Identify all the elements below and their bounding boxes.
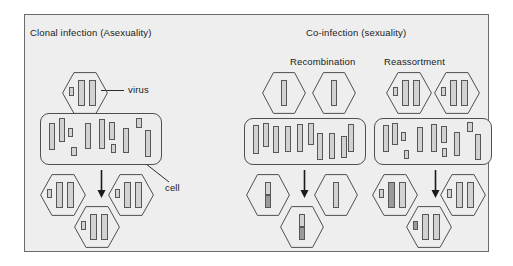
genome-segment	[47, 189, 52, 198]
genome-segment	[417, 127, 423, 152]
genome-segment	[99, 119, 105, 149]
genome-segment	[433, 214, 440, 240]
reassortment-progeny-virus	[406, 206, 452, 248]
clonal-panel-title: Clonal infection (Asexuality)	[30, 27, 152, 38]
genome-segment	[285, 126, 291, 152]
recombination-host-cell	[244, 118, 366, 165]
genome-segment	[136, 118, 142, 128]
genome-segment	[456, 182, 463, 208]
genome-segment	[297, 124, 303, 152]
virus-genome-group	[62, 72, 108, 114]
genome-segment	[454, 132, 460, 156]
genome-segment	[273, 126, 279, 153]
genome-segment	[383, 125, 389, 152]
genome-segment	[404, 150, 409, 159]
genome-segment	[402, 80, 409, 106]
virus-infection-diagram: Clonal infection (Asexuality) Co-infecti…	[0, 0, 513, 266]
virus-genome-group	[386, 72, 432, 114]
genome-segment	[145, 130, 151, 157]
genome-segment	[475, 134, 481, 160]
genome-segment	[49, 123, 55, 150]
virus-genome-group	[312, 72, 356, 114]
genome-segment	[90, 214, 97, 240]
recombination-progeny-arrow	[299, 170, 310, 198]
reassortment-subtitle: Reassortment	[384, 56, 445, 67]
genome-segment	[401, 132, 406, 141]
genome-segment	[281, 80, 287, 106]
reassortment-parent-virus	[434, 72, 480, 114]
virus-genome-group	[262, 72, 306, 114]
genome-segment	[78, 80, 85, 106]
genome-segment	[85, 123, 91, 149]
clonal-parent-virus	[62, 72, 108, 114]
genome-segment	[135, 182, 142, 208]
genome-segment	[431, 124, 437, 152]
virus-genome-group	[74, 206, 120, 248]
genome-segment	[111, 144, 116, 153]
genome-segment	[71, 147, 77, 156]
genome-segment	[68, 128, 73, 137]
genome-segment	[441, 126, 447, 143]
genome-segment	[299, 214, 305, 240]
clonal-progeny-virus	[74, 206, 120, 248]
genome-segment	[109, 122, 115, 140]
genome-segment	[81, 221, 86, 230]
genome-segment	[348, 124, 354, 152]
recombination-parent-virus	[262, 72, 306, 114]
clonal-host-cell	[40, 113, 162, 165]
reassortment-host-cell	[374, 118, 492, 165]
genome-segment	[124, 182, 131, 208]
genome-segment	[413, 221, 418, 230]
genome-segment	[101, 214, 108, 240]
genome-segment	[317, 133, 323, 160]
genome-segment	[308, 123, 314, 145]
genome-segment	[392, 123, 398, 145]
genome-segment	[89, 80, 96, 106]
genome-segment	[263, 123, 269, 147]
recombination-progeny-virus	[280, 206, 324, 248]
genome-segment	[447, 189, 452, 198]
genome-segment	[422, 214, 429, 240]
genome-segment	[467, 122, 473, 132]
genome-segment	[253, 125, 259, 154]
virus-genome-group	[280, 206, 324, 248]
genome-segment	[69, 87, 74, 96]
genome-segment	[115, 189, 120, 198]
genome-segment	[329, 133, 335, 159]
virus-genome-group	[406, 206, 452, 248]
genome-segment	[467, 182, 474, 208]
reassortment-parent-virus	[386, 72, 432, 114]
genome-segment	[379, 189, 384, 198]
genome-segment	[341, 136, 347, 158]
coinfection-panel-title: Co-infection (sexuality)	[306, 27, 406, 38]
genome-segment	[388, 182, 395, 208]
virus-genome-group	[434, 72, 480, 114]
genome-segment	[333, 182, 339, 208]
genome-segment	[399, 182, 406, 208]
genome-segment	[59, 118, 65, 142]
genome-segment	[442, 148, 447, 157]
genome-segment	[461, 80, 468, 106]
genome-segment	[56, 182, 63, 208]
genome-segment	[450, 80, 457, 106]
clonal-progeny-arrow	[96, 170, 107, 198]
genome-segment	[331, 80, 337, 106]
virus-callout-label: virus	[128, 84, 149, 95]
recombination-subtitle: Recombination	[290, 56, 355, 67]
genome-segment	[123, 128, 129, 153]
recombination-parent-virus	[312, 72, 356, 114]
genome-segment	[441, 87, 446, 96]
genome-segment	[393, 87, 398, 96]
genome-segment	[265, 182, 271, 208]
genome-segment	[67, 182, 74, 208]
genome-segment	[413, 80, 420, 106]
